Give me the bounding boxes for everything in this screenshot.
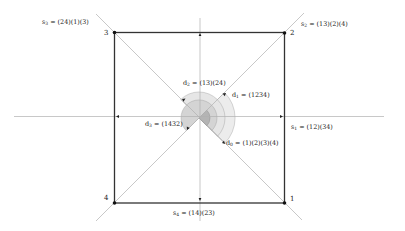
vertex-1-dot: [283, 201, 287, 205]
vertex-label-3: 3: [104, 30, 108, 37]
vertex-label-2: 2: [290, 30, 294, 37]
vertex-label-4: 4: [104, 195, 108, 202]
arrow-s1-left: [116, 115, 119, 118]
vertex-2-dot: [283, 31, 287, 35]
label-d1: d1 = (1234): [232, 92, 270, 100]
label-d3: d3 = (1432): [145, 121, 183, 129]
reflection-axes: [14, 13, 384, 221]
label-s2: s2 = (13)(2)(4): [301, 21, 348, 29]
arrow-s4-top: [199, 33, 202, 36]
axis-s3: [96, 14, 302, 220]
label-s3: s3 = (24)(1)(3): [42, 19, 89, 27]
label-d0: d0 = (1)(2)(3)(4): [226, 140, 279, 148]
vertex-3-dot: [113, 31, 117, 35]
label-s1: s1 = (12)(34): [291, 124, 333, 132]
vertex-4-dot: [113, 201, 117, 205]
arrow-s4-bottom: [199, 198, 202, 201]
label-d2: d2 = (13)(24): [183, 80, 226, 88]
label-s4: s4 = (14)(23): [173, 210, 215, 218]
arrow-s1-right: [280, 115, 283, 118]
vertex-label-1: 1: [290, 196, 294, 203]
symmetry-diagram: [0, 0, 405, 231]
rotation-arcs: [181, 92, 235, 144]
